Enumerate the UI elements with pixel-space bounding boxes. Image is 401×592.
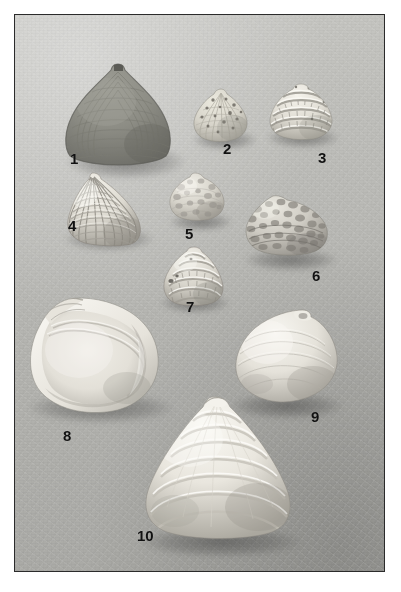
specimen-3-shell — [267, 83, 334, 140]
specimen-label-1: 1 — [70, 151, 78, 166]
specimen-6-shell — [243, 193, 330, 257]
specimen-label-9: 9 — [311, 409, 319, 424]
specimen-5-shell — [168, 172, 226, 222]
specimen-label-3: 3 — [318, 150, 326, 165]
specimen-4[interactable] — [63, 171, 145, 247]
specimen-5[interactable] — [168, 172, 226, 222]
specimen-4-shell — [63, 171, 145, 247]
specimen-label-4: 4 — [68, 218, 76, 233]
specimen-10-shell — [141, 395, 294, 540]
specimen-label-2: 2 — [223, 141, 231, 156]
specimen-label-5: 5 — [185, 226, 193, 241]
photographic-plate-frame: 1 — [14, 14, 385, 572]
specimen-1[interactable] — [62, 62, 174, 166]
specimen-label-7: 7 — [186, 299, 194, 314]
specimen-9[interactable] — [233, 308, 339, 405]
specimen-2-shell — [191, 88, 250, 142]
specimen-6[interactable] — [243, 193, 330, 257]
plate-root: 1 — [0, 0, 401, 592]
specimen-2[interactable] — [191, 88, 250, 142]
specimen-9-shell — [233, 308, 339, 405]
specimen-label-10: 10 — [137, 528, 154, 543]
specimen-label-6: 6 — [312, 268, 320, 283]
specimen-label-8: 8 — [63, 428, 71, 443]
specimen-1-shell — [62, 62, 174, 166]
specimen-3[interactable] — [267, 83, 334, 140]
specimen-10[interactable] — [141, 395, 294, 540]
